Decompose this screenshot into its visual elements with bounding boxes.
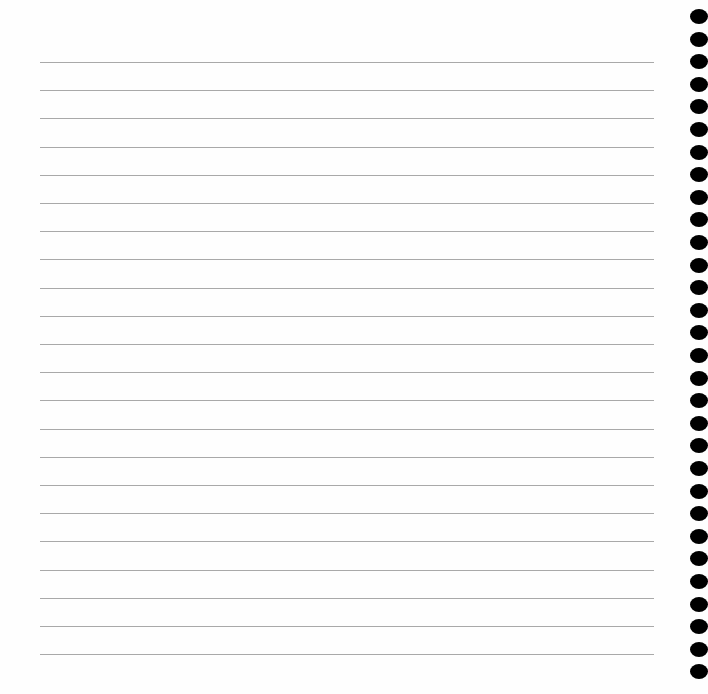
binding-hole-icon: [690, 574, 708, 589]
ruled-line: [40, 541, 654, 542]
ruled-line: [40, 429, 654, 430]
ruled-line: [40, 231, 654, 232]
ruled-line: [40, 654, 654, 655]
binding-hole-icon: [690, 348, 708, 363]
binding-hole-icon: [690, 597, 708, 612]
binding-hole-icon: [690, 190, 708, 205]
binding-hole-icon: [690, 416, 708, 431]
binding-hole-icon: [690, 642, 708, 657]
ruled-line: [40, 288, 654, 289]
ruled-line: [40, 316, 654, 317]
binding-hole-icon: [690, 484, 708, 499]
binding-hole-icon: [690, 325, 708, 340]
binding-hole-icon: [690, 9, 708, 24]
ruled-line: [40, 147, 654, 148]
ruled-line: [40, 626, 654, 627]
ruled-line: [40, 570, 654, 571]
binding-hole-icon: [690, 664, 708, 679]
ruled-line: [40, 400, 654, 401]
notebook-page: [0, 0, 708, 694]
binding-hole-icon: [690, 258, 708, 273]
binding-hole-icon: [690, 99, 708, 114]
binding-hole-icon: [690, 461, 708, 476]
ruled-line: [40, 513, 654, 514]
ruled-line: [40, 485, 654, 486]
ruled-line: [40, 457, 654, 458]
binding-hole-icon: [690, 371, 708, 386]
binding-hole-icon: [690, 167, 708, 182]
ruled-line: [40, 62, 654, 63]
binding-hole-icon: [690, 529, 708, 544]
ruled-line: [40, 203, 654, 204]
ruled-line: [40, 372, 654, 373]
binding-hole-icon: [690, 280, 708, 295]
binding-hole-icon: [690, 212, 708, 227]
binding-hole-icon: [690, 551, 708, 566]
binding-hole-icon: [690, 235, 708, 250]
binding-hole-icon: [690, 54, 708, 69]
binding-hole-icon: [690, 438, 708, 453]
binding-hole-icon: [690, 32, 708, 47]
ruled-line: [40, 90, 654, 91]
binding-hole-icon: [690, 77, 708, 92]
ruled-line: [40, 118, 654, 119]
ruled-line: [40, 344, 654, 345]
binding-hole-icon: [690, 145, 708, 160]
binding-hole-icon: [690, 393, 708, 408]
ruled-line: [40, 598, 654, 599]
ruled-line: [40, 175, 654, 176]
binding-hole-icon: [690, 506, 708, 521]
binding-hole-icon: [690, 122, 708, 137]
ruled-line: [40, 259, 654, 260]
binding-hole-icon: [690, 303, 708, 318]
binding-hole-icon: [690, 619, 708, 634]
